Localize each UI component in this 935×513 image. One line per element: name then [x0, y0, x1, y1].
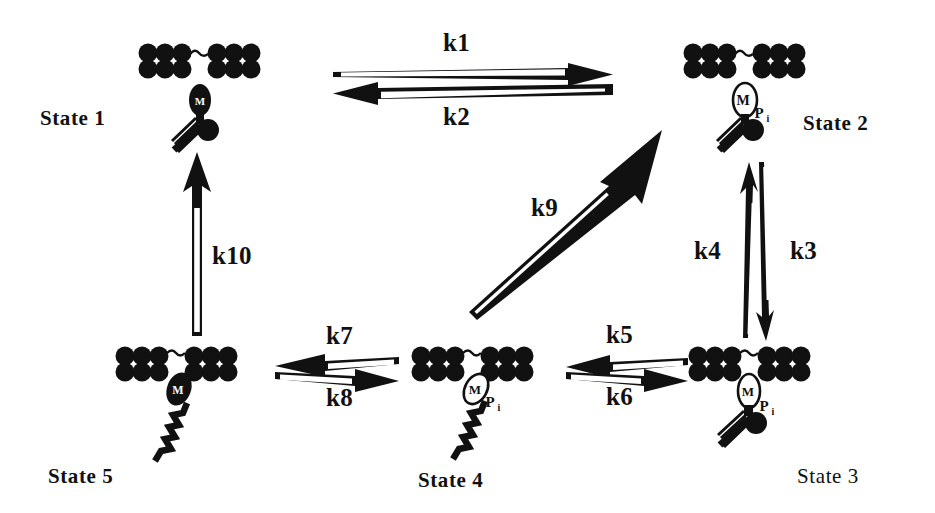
- molecule-state5: M: [115, 345, 265, 485]
- cross-bridge-cycle-diagram: M M P i: [0, 0, 935, 513]
- rate-label-k5: k5: [606, 322, 633, 347]
- myosin-tail-state5: [155, 403, 187, 461]
- filament-gap-connector: [167, 351, 185, 356]
- rate-label-k10: k10: [212, 243, 252, 268]
- actin-filament-state2: [684, 44, 806, 79]
- state-label-state5: State 5: [48, 466, 113, 487]
- state-label-state4: State 4: [418, 470, 483, 491]
- filament-gap-connector: [190, 51, 208, 56]
- myosin-head-state5: M: [155, 369, 196, 461]
- head-letter-state1: M: [195, 95, 206, 107]
- arrow-k2: [333, 82, 613, 105]
- rate-label-k4: k4: [694, 238, 721, 263]
- phosphate-label-state3: P: [759, 398, 768, 414]
- arrow-k3: [756, 162, 774, 341]
- rate-label-k9: k9: [531, 195, 558, 220]
- head-letter-state5: M: [172, 383, 183, 397]
- myosin-tail-state4: [453, 401, 485, 459]
- rate-label-k2: k2: [443, 104, 470, 129]
- arrow-k9: [469, 130, 662, 320]
- myosin-head-state2: M P i: [717, 83, 770, 152]
- head-letter-state2: M: [736, 93, 749, 108]
- molecule-state2: M P i: [683, 42, 833, 172]
- filament-gap-connector: [735, 51, 753, 56]
- head-letter-state4: M: [469, 382, 481, 397]
- phosphate-sub-state4: i: [498, 402, 501, 413]
- rate-label-k7: k7: [326, 323, 353, 348]
- arrow-k4: [740, 162, 758, 338]
- myosin-head-state4: M P i: [453, 370, 501, 459]
- state-label-state1: State 1: [40, 108, 105, 129]
- arrow-k10: [183, 152, 211, 336]
- rate-label-k8: k8: [326, 385, 353, 410]
- arrow-k1: [333, 63, 613, 86]
- arrow-pair-k3-k4: [740, 162, 774, 341]
- myosin-head-state1: M: [172, 84, 219, 152]
- state-label-state2: State 2: [803, 113, 868, 134]
- arrow-pair-k1-k2: [333, 63, 613, 105]
- filament-gap-connector: [740, 351, 758, 356]
- molecule-state4: M P i: [411, 345, 561, 485]
- head-letter-state3: M: [742, 384, 754, 399]
- actin-filament-state1: [139, 44, 261, 79]
- rate-label-k1: k1: [443, 30, 470, 55]
- myosin-head-state3: M P i: [718, 374, 775, 447]
- rate-label-k6: k6: [606, 384, 633, 409]
- phosphate-label-state2: P: [754, 105, 763, 121]
- molecule-state1: M: [138, 42, 278, 172]
- filament-gap-connector: [463, 351, 481, 356]
- rate-label-k3: k3: [790, 238, 817, 263]
- phosphate-sub-state3: i: [772, 406, 775, 417]
- molecule-state3: M P i: [688, 345, 838, 480]
- phosphate-sub-state2: i: [767, 113, 770, 124]
- state-label-state3: State 3: [797, 466, 859, 487]
